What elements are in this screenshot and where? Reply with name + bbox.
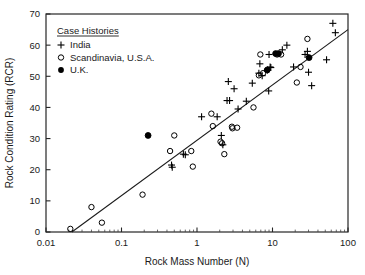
open-circle-marker (305, 36, 310, 41)
x-tick-label: 0.1 (115, 237, 128, 248)
legend-entry-label: U.K. (70, 64, 88, 75)
x-tick-label: 100 (340, 237, 356, 248)
open-circle-marker (294, 80, 299, 85)
open-circle-marker (189, 148, 194, 153)
legend-marker-plus (58, 42, 65, 49)
plot-frame (46, 14, 348, 232)
open-circle-marker (167, 148, 172, 153)
figure-container: 0.010.1110100010203040506070Rock Mass Nu… (0, 0, 365, 275)
filled-circle-marker (58, 67, 64, 73)
open-circle-marker (190, 164, 195, 169)
open-circle-marker (209, 111, 214, 116)
filled-circle-marker (264, 67, 270, 73)
filled-circle-marker (276, 51, 282, 57)
series-india (168, 20, 339, 171)
y-tick-label: 0 (35, 226, 40, 237)
open-circle-marker (251, 105, 256, 110)
x-tick-label: 0.01 (37, 237, 56, 248)
legend-entry-label: India (70, 39, 91, 50)
legend-title: Case Histories (57, 25, 119, 36)
x-axis-label: Rock Mass Number (N) (145, 256, 249, 267)
filled-circle-marker (306, 55, 312, 61)
y-tick-label: 60 (29, 40, 40, 51)
open-circle-marker (99, 220, 104, 225)
filled-circle-marker (145, 133, 151, 139)
series-scandinavia-u-s-a (68, 36, 310, 231)
open-circle-marker (258, 52, 263, 57)
series-u-k (145, 51, 312, 139)
open-circle-marker (89, 204, 94, 209)
y-tick-label: 70 (29, 8, 40, 19)
y-tick-label: 30 (29, 133, 40, 144)
legend-marker-open-circle (58, 55, 63, 60)
x-tick-label: 1 (194, 237, 199, 248)
y-tick-label: 40 (29, 102, 40, 113)
open-circle-marker (172, 133, 177, 138)
y-tick-label: 20 (29, 164, 40, 175)
legend-entry-label: Scandinavia, U.S.A. (70, 52, 155, 63)
open-circle-marker (222, 151, 227, 156)
scatter-plot: 0.010.1110100010203040506070Rock Mass Nu… (0, 0, 365, 275)
open-circle-marker (58, 55, 63, 60)
y-tick-label: 50 (29, 71, 40, 82)
y-tick-label: 10 (29, 195, 40, 206)
y-axis-label: Rock Condition Rating (RCR) (4, 58, 15, 189)
open-circle-marker (140, 192, 145, 197)
legend-marker-filled-circle (58, 67, 64, 73)
x-tick-label: 10 (267, 237, 278, 248)
open-circle-marker (68, 226, 73, 231)
